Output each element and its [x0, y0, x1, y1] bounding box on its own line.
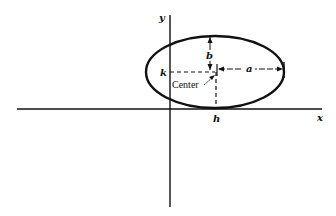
- b-label: b: [206, 50, 213, 61]
- y-axis-label: y: [158, 12, 166, 23]
- b-arrow-top: [208, 37, 213, 43]
- k-label: k: [160, 67, 167, 78]
- ellipse-diagram: x y a b k h Center: [0, 0, 336, 216]
- a-arrow-right: [277, 67, 283, 72]
- a-arrow-left: [218, 67, 224, 72]
- x-axis-label: x: [316, 112, 324, 123]
- h-label: h: [213, 113, 220, 124]
- center-arrowhead: [209, 75, 215, 80]
- a-label: a: [246, 63, 252, 74]
- b-arrow-bottom: [208, 64, 213, 70]
- center-label: Center: [172, 79, 199, 90]
